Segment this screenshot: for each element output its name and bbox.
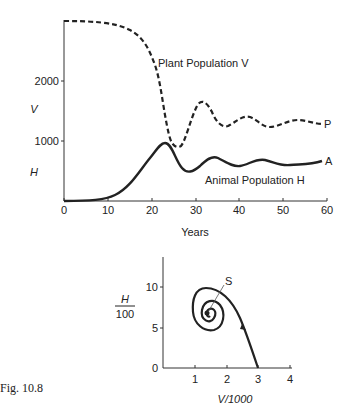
y-tick-label: 0 [152,362,158,374]
y-tick-label: 1000 [35,135,59,147]
phase-trajectory [193,288,258,368]
x-tick-label: 50 [277,204,289,216]
x-tick-label: 10 [102,204,114,216]
y-axis-label-h: H [30,166,38,178]
plant-end-label: P [324,118,331,130]
y-axis-label-v: V [30,103,39,115]
animal-population-label: Animal Population H [205,174,305,186]
x-tick-label: 30 [190,204,202,216]
figure-canvas: 2000 1000 V H 0 10 20 30 40 50 60 Years … [0,0,356,410]
y-tick-label: 2000 [35,75,59,87]
time-series-chart: 2000 1000 V H 0 10 20 30 40 50 60 Years … [30,20,333,238]
plant-population-label: Plant Population V [158,57,249,69]
x-tick-label: 20 [146,204,158,216]
equilibrium-label: S [225,275,232,287]
x-tick-label: 4 [287,373,293,385]
x-tick-label: 60 [321,204,333,216]
x-tick-label: 0 [61,204,67,216]
animal-end-label: A [325,155,333,167]
x-tick-label: 3 [255,373,261,385]
plant-population-line [64,21,322,147]
x-tick-label: 2 [224,373,230,385]
y-axis-label-denominator: 100 [116,308,134,320]
x-tick-label: 40 [233,204,245,216]
phase-plane-chart: 0 5 10 1 2 3 4 V/1000 H 100 S [115,257,293,405]
x-axis-label: V/1000 [218,393,254,405]
animal-population-line [64,143,322,201]
y-tick-label: 5 [152,322,158,334]
figure-caption: Fig. 10.8 [0,381,43,395]
x-tick-label: 1 [192,373,198,385]
y-axis-label-numerator: H [121,293,129,305]
y-tick-label: 10 [146,281,158,293]
x-axis-label: Years [181,226,209,238]
